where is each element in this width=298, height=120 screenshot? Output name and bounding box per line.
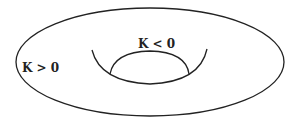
torus-diagram: K > 0 K < 0 [0, 0, 298, 120]
positive-curvature-label: K > 0 [22, 61, 59, 75]
torus-hole-lower-arc [92, 49, 207, 84]
torus-hole-upper-arc [110, 51, 189, 74]
negative-curvature-label: K < 0 [138, 37, 175, 51]
